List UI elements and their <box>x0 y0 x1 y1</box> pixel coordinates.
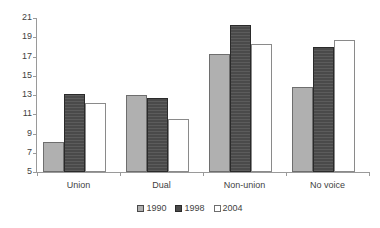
y-axis: 211917151311975 <box>0 0 32 200</box>
legend-swatch-icon-1990 <box>137 205 144 212</box>
x-tick-label-dual: Dual <box>120 180 203 190</box>
x-tick-mark <box>286 172 287 176</box>
y-tick-label: 7 <box>2 148 32 157</box>
bar-no-voice-2004 <box>334 40 355 172</box>
legend-label: 1998 <box>184 203 204 213</box>
bar-chart: 211917151311975 UnionDualNon-unionNo voi… <box>0 0 380 228</box>
chart-legend: 199019982004 <box>0 203 380 213</box>
y-tick-label: 5 <box>2 167 32 176</box>
legend-swatch-icon-1998 <box>175 205 182 212</box>
bar-no-voice-1998 <box>313 47 334 172</box>
y-tick-label: 9 <box>2 129 32 138</box>
bar-non-union-1990 <box>209 54 230 172</box>
legend-item-1998[interactable]: 1998 <box>175 203 204 213</box>
x-tick-label-no-voice: No voice <box>286 180 369 190</box>
x-tick-label-union: Union <box>37 180 120 190</box>
y-tick-label: 19 <box>2 32 32 41</box>
legend-item-1990[interactable]: 1990 <box>137 203 166 213</box>
y-tick-label: 21 <box>2 13 32 22</box>
legend-swatch-icon-2004 <box>214 205 221 212</box>
x-tick-mark <box>369 172 370 176</box>
bar-union-1990 <box>43 142 64 172</box>
legend-label: 2004 <box>223 203 243 213</box>
x-tick-mark <box>37 172 38 176</box>
y-tick-label: 15 <box>2 71 32 80</box>
plot-area: UnionDualNon-unionNo voice <box>36 18 370 172</box>
x-tick-mark <box>120 172 121 176</box>
bar-no-voice-1990 <box>292 87 313 172</box>
y-tick-label: 11 <box>2 109 32 118</box>
bar-dual-1998 <box>147 98 168 172</box>
bar-union-1998 <box>64 94 85 172</box>
y-axis-line <box>36 18 37 172</box>
legend-item-2004[interactable]: 2004 <box>214 203 243 213</box>
bar-dual-2004 <box>168 119 189 172</box>
bar-dual-1990 <box>126 95 147 172</box>
x-tick-label-non-union: Non-union <box>203 180 286 190</box>
bar-non-union-1998 <box>230 25 251 172</box>
bar-non-union-2004 <box>251 44 272 172</box>
bar-union-2004 <box>85 103 106 172</box>
y-tick-label: 13 <box>2 90 32 99</box>
y-tick-label: 17 <box>2 52 32 61</box>
x-tick-mark <box>203 172 204 176</box>
legend-label: 1990 <box>146 203 166 213</box>
